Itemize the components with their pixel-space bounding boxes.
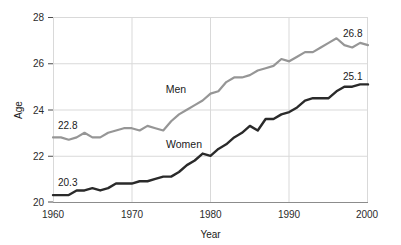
value-label-men-start: 22.8 [58, 120, 78, 131]
y-tick-label-24: 24 [33, 105, 45, 116]
x-tick-label-1960: 1960 [42, 209, 65, 220]
chart-container: 28 26 24 22 20 1960 1970 1980 1990 2000 … [0, 0, 401, 245]
line-chart: 28 26 24 22 20 1960 1970 1980 1990 2000 … [0, 0, 401, 245]
x-tick-label-1970: 1970 [121, 209, 144, 220]
y-axis-title: Age [13, 101, 24, 119]
value-label-men-end: 26.8 [343, 28, 363, 39]
y-tick-label-28: 28 [33, 12, 45, 23]
y-tick-label-22: 22 [33, 151, 45, 162]
y-axis-ticks [48, 18, 53, 203]
x-axis-title: Year [200, 229, 221, 240]
value-label-women-end: 25.1 [343, 71, 363, 82]
value-label-women-start: 20.3 [58, 177, 78, 188]
series-label-men: Men [166, 83, 187, 95]
x-tick-label-2000: 2000 [356, 209, 379, 220]
y-tick-label-26: 26 [33, 58, 45, 69]
x-tick-label-1980: 1980 [199, 209, 222, 220]
x-tick-label-1990: 1990 [278, 209, 301, 220]
y-tick-label-20: 20 [33, 197, 45, 208]
series-label-women: Women [166, 138, 202, 150]
